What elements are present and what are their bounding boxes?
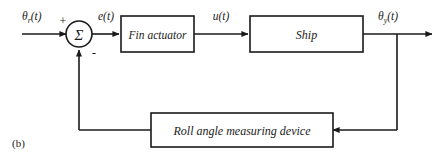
block-fin-actuator-label: Fin actuator [128,29,187,41]
signal-label-control: u(t) [213,10,230,23]
signal-label-reference-input: θr(t) [22,10,42,25]
minus-sign: - [92,45,96,60]
signal-label-error: e(t) [98,10,114,23]
plus-sign: + [60,14,67,28]
signal-label-output: θy(t) [378,10,398,25]
block-diagram-figure: Σ + - Fin actuator Ship Roll angle measu… [0,0,439,164]
reference-tail: (t) [31,10,42,23]
block-ship-label: Ship [296,28,317,42]
figure-caption: (b) [12,137,25,150]
output-tail: (t) [387,10,398,23]
summing-junction-sigma: Σ [74,27,84,43]
block-roll-angle-measuring-device-label: Roll angle measuring device [173,124,312,138]
